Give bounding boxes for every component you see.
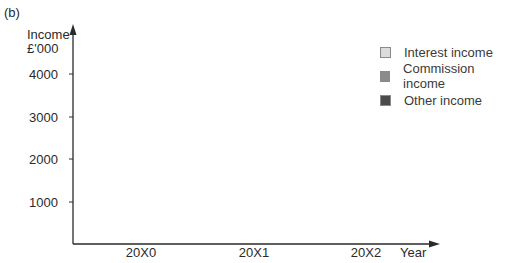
x-tick-label-20x2: 20X2 [341, 245, 391, 260]
y-tick-label-3000: 3000 [14, 110, 58, 125]
y-tick-label-4000: 4000 [14, 67, 58, 82]
x-tick-label-20x0: 20X0 [116, 245, 166, 260]
x-axis-label: Year [400, 245, 426, 260]
legend-label: Other income [404, 93, 482, 108]
x-axis-arrow-icon [429, 241, 440, 248]
legend-item-other-income: Other income [380, 88, 508, 112]
x-tick-label-20x1: 20X1 [229, 245, 279, 260]
legend-label: Commission income [403, 61, 508, 91]
legend-label: Interest income [404, 45, 493, 60]
y-tick-label-2000: 2000 [14, 152, 58, 167]
legend-item-commission-income: Commission income [380, 64, 508, 88]
legend-swatch-icon [380, 47, 391, 58]
legend-swatch-icon [380, 71, 390, 82]
legend: Interest income Commission income Other … [380, 40, 508, 112]
y-axis-arrow-icon [70, 24, 77, 35]
legend-swatch-icon [380, 95, 391, 106]
y-tick-label-1000: 1000 [14, 195, 58, 210]
